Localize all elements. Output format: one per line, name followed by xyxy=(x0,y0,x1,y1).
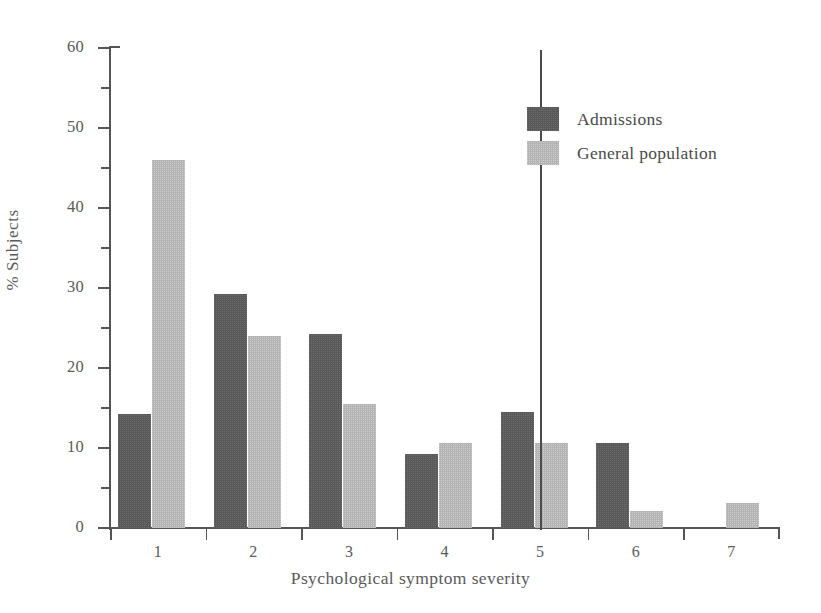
x-axis-tick-label: 6 xyxy=(606,543,666,561)
x-axis-tick xyxy=(206,529,208,540)
y-axis-tick-minor xyxy=(101,407,110,409)
bar-general-population-2 xyxy=(248,336,281,528)
bar-admissions-1 xyxy=(118,414,151,528)
chart-figure: 0102030405060 % Subjects 1234567 Psychol… xyxy=(0,0,821,613)
y-axis-title: % Subjects xyxy=(3,209,23,290)
legend-swatch-icon xyxy=(527,107,559,131)
x-axis-tick-label: 2 xyxy=(223,543,283,561)
chart-legend: AdmissionsGeneral population xyxy=(527,102,717,170)
y-axis-tick-major xyxy=(98,207,110,209)
y-axis-tick-minor xyxy=(101,327,110,329)
x-axis-tick xyxy=(588,529,590,540)
y-axis-tick-minor xyxy=(101,487,110,489)
y-axis-tick-label: 60 xyxy=(0,39,84,56)
legend-swatch-icon xyxy=(527,141,559,165)
y-axis-tick-label: 10 xyxy=(0,439,84,456)
x-axis-tick xyxy=(301,529,303,540)
legend-label: Admissions xyxy=(577,109,663,130)
y-axis-tick-label: 50 xyxy=(0,119,84,136)
y-axis-tick-minor xyxy=(101,87,110,89)
y-axis-tick-major xyxy=(98,527,110,529)
bar-admissions-5 xyxy=(501,412,534,528)
y-axis-tick-major xyxy=(98,367,110,369)
x-axis-end-cap xyxy=(778,527,780,539)
legend-item: General population xyxy=(527,136,717,170)
y-axis-tick-major xyxy=(98,127,110,129)
y-axis-tick-label: 20 xyxy=(0,359,84,376)
x-axis-tick-label: 5 xyxy=(510,543,570,561)
x-axis-tick xyxy=(492,529,494,540)
legend-item: Admissions xyxy=(527,102,717,136)
bar-general-population-1 xyxy=(152,160,185,528)
x-axis-tick-label: 1 xyxy=(128,543,188,561)
bar-general-population-4 xyxy=(439,443,472,528)
x-axis-tick-label: 7 xyxy=(701,543,761,561)
y-axis-tick-major xyxy=(98,447,110,449)
bar-general-population-7 xyxy=(726,503,759,528)
y-axis-tick-minor xyxy=(101,167,110,169)
x-axis-tick-label: 4 xyxy=(415,543,475,561)
y-axis-tick-major xyxy=(98,287,110,289)
y-axis-tick-major xyxy=(98,47,110,49)
y-axis-tick-label: 0 xyxy=(0,519,84,536)
bar-admissions-6 xyxy=(596,443,629,528)
y-axis-tick-minor xyxy=(101,247,110,249)
bar-admissions-4 xyxy=(405,454,438,528)
bar-admissions-2 xyxy=(214,294,247,528)
bar-general-population-6 xyxy=(630,511,663,528)
x-axis-tick-label: 3 xyxy=(319,543,379,561)
x-axis-tick xyxy=(397,529,399,540)
bar-general-population-3 xyxy=(343,404,376,528)
legend-label: General population xyxy=(577,143,717,164)
bar-admissions-3 xyxy=(309,334,342,528)
x-axis-tick-origin xyxy=(110,529,112,540)
x-axis-title: Psychological symptom severity xyxy=(0,568,821,589)
x-axis-tick xyxy=(683,529,685,540)
